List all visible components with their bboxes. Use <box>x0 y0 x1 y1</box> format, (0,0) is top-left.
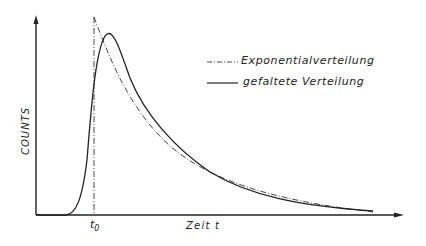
x-axis-label: Zeit t <box>186 220 220 231</box>
y-axis-label: COUNTS <box>20 107 31 155</box>
decay-diagram <box>0 0 426 246</box>
y-axis-arrow-icon <box>34 15 39 24</box>
legend-convolved-label: gefaltete Verteilung <box>243 75 364 88</box>
t0-label: t0 <box>90 218 99 233</box>
exponential-curve <box>94 17 373 212</box>
legend-exponential-label: Exponentialverteilung <box>241 54 375 67</box>
x-axis-arrow-icon <box>394 213 404 218</box>
t0-label-subscript: 0 <box>94 224 99 233</box>
